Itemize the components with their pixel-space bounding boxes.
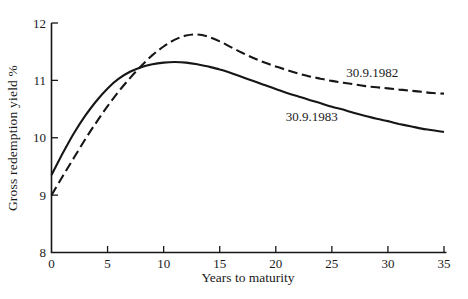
yield-curve-figure: 8910111205101520253035 Gross redemption …	[0, 0, 468, 299]
x-tick-label: 35	[438, 256, 451, 271]
y-tick-label: 10	[33, 130, 46, 145]
series-line-30-9-1982	[52, 34, 445, 195]
series-label-1982: 30.9.1982	[346, 65, 398, 81]
x-tick-label: 20	[269, 256, 282, 271]
x-tick-label: 30	[381, 256, 394, 271]
y-axis-title: Gross redemption yield %	[5, 65, 21, 211]
y-tick-label: 8	[40, 245, 47, 260]
x-tick-label: 15	[213, 256, 226, 271]
x-tick-label: 25	[325, 256, 338, 271]
x-tick-label: 10	[157, 256, 170, 271]
line-chart-svg: 8910111205101520253035	[0, 0, 468, 299]
axes-line	[52, 23, 447, 253]
x-axis-title: Years to maturity	[201, 270, 294, 286]
x-tick-label: 0	[48, 256, 55, 271]
y-tick-label: 9	[40, 188, 47, 203]
y-tick-label: 12	[33, 16, 46, 31]
x-tick-label: 5	[104, 256, 111, 271]
series-label-1983: 30.9.1983	[286, 109, 338, 125]
y-tick-label: 11	[33, 73, 46, 88]
